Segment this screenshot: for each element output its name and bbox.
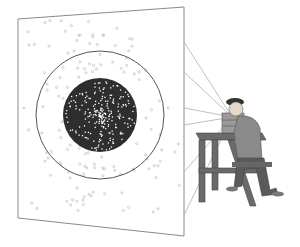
head: [229, 102, 243, 116]
shoe: [226, 187, 238, 192]
shoe: [272, 192, 284, 197]
illustration: [0, 0, 300, 247]
stool: [232, 162, 272, 167]
shirt: [234, 116, 262, 162]
